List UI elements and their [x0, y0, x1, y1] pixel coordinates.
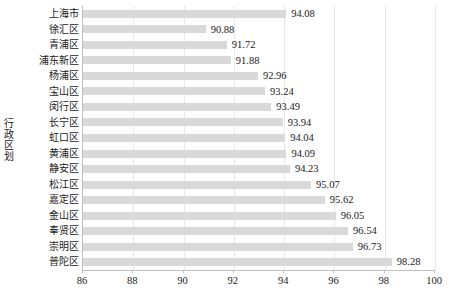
x-axis-tick-label: 96 [328, 275, 339, 286]
plot-area: 上海市94.08徐汇区90.88青浦区91.72浦东新区91.88杨浦区92.9… [82, 6, 435, 270]
category-label: 松江区 [49, 177, 79, 193]
bar-value-label: 95.62 [325, 192, 354, 208]
x-axis-tick-label: 90 [177, 275, 188, 286]
category-label: 浦东新区 [39, 53, 79, 69]
x-axis-tick-label: 92 [228, 275, 239, 286]
bar [83, 150, 286, 158]
bar-value-label: 93.24 [265, 84, 294, 100]
category-label: 徐汇区 [49, 22, 79, 38]
category-label: 普陀区 [49, 254, 79, 270]
bar [83, 25, 206, 33]
x-axis-tick-label: 94 [278, 275, 289, 286]
bar [83, 10, 286, 18]
bar [83, 87, 265, 95]
bar-value-label: 93.94 [283, 115, 312, 131]
bar-value-label: 94.09 [286, 146, 315, 162]
bar-value-label: 94.08 [286, 6, 315, 22]
bar-value-label: 94.23 [290, 161, 319, 177]
bar-row: 杨浦区92.96 [83, 68, 435, 84]
category-label: 杨浦区 [49, 68, 79, 84]
bar [83, 41, 227, 49]
category-label: 静安区 [49, 161, 79, 177]
gridline [435, 6, 436, 270]
category-label: 长宁区 [49, 115, 79, 131]
bar-value-label: 94.04 [285, 130, 314, 146]
bar-row: 崇明区96.73 [83, 239, 435, 255]
bar [83, 196, 325, 204]
category-label: 虹口区 [49, 130, 79, 146]
bar-row: 松江区95.07 [83, 177, 435, 193]
bar-row: 嘉定区95.62 [83, 192, 435, 208]
bar-value-label: 90.88 [206, 22, 235, 38]
bar [83, 56, 231, 64]
bar [83, 243, 353, 251]
bar-value-label: 92.96 [258, 68, 287, 84]
x-axis-tick-label: 88 [127, 275, 138, 286]
bar [83, 72, 258, 80]
bar [83, 181, 311, 189]
bar-value-label: 91.72 [227, 37, 256, 53]
bar-value-label: 98.28 [392, 254, 421, 270]
category-label: 青浦区 [49, 37, 79, 53]
category-label: 闵行区 [49, 99, 79, 115]
bar-row: 徐汇区90.88 [83, 22, 435, 38]
category-label: 黄浦区 [49, 146, 79, 162]
bar-row: 长宁区93.94 [83, 115, 435, 131]
bar [83, 212, 336, 220]
bar-chart: 行政区划 上海市94.08徐汇区90.88青浦区91.72浦东新区91.88杨浦… [0, 0, 451, 304]
bar-value-label: 93.49 [271, 99, 300, 115]
bar-row: 虹口区94.04 [83, 130, 435, 146]
bar-value-label: 95.07 [311, 177, 340, 193]
y-axis-title: 行政区划 [2, 118, 16, 162]
bar [83, 118, 283, 126]
bar [83, 165, 290, 173]
category-label: 宝山区 [49, 84, 79, 100]
bar-value-label: 91.88 [231, 53, 260, 69]
bar-row: 上海市94.08 [83, 6, 435, 22]
bar-row: 黄浦区94.09 [83, 146, 435, 162]
bar [83, 134, 285, 142]
category-label: 崇明区 [49, 239, 79, 255]
x-axis-tick-label: 100 [426, 275, 442, 286]
bar [83, 103, 271, 111]
bar-row: 宝山区93.24 [83, 84, 435, 100]
bar-value-label: 96.73 [353, 239, 382, 255]
bar-row: 静安区94.23 [83, 161, 435, 177]
category-label: 金山区 [49, 208, 79, 224]
bar [83, 227, 348, 235]
bar-row: 奉贤区96.54 [83, 223, 435, 239]
bar-row: 浦东新区91.88 [83, 53, 435, 69]
category-label: 上海市 [49, 6, 79, 22]
bar-row: 青浦区91.72 [83, 37, 435, 53]
bar-row: 普陀区98.28 [83, 254, 435, 270]
category-label: 奉贤区 [49, 223, 79, 239]
bar-value-label: 96.05 [336, 208, 365, 224]
category-label: 嘉定区 [49, 192, 79, 208]
x-axis-tick-labels: 86889092949698100 [0, 270, 451, 290]
bar-row: 闵行区93.49 [83, 99, 435, 115]
bar-value-label: 96.54 [348, 223, 377, 239]
bar [83, 258, 392, 266]
x-axis-tick-label: 86 [77, 275, 88, 286]
bar-row: 金山区96.05 [83, 208, 435, 224]
x-axis-tick-label: 98 [378, 275, 389, 286]
